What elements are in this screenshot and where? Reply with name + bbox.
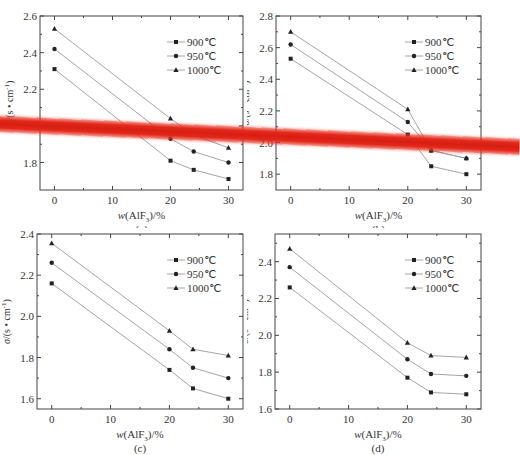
y-tick-label: 1.8: [23, 157, 37, 169]
square-marker-icon: [167, 368, 171, 372]
x-tick-label: 30: [461, 413, 473, 425]
circle-marker-icon: [288, 265, 292, 269]
triangle-marker-icon: [190, 346, 195, 351]
x-tick-label: 30: [461, 194, 473, 206]
x-axis-label: w(AlF3)/%: [354, 428, 402, 443]
circle-marker-icon: [288, 42, 292, 46]
circle-marker-icon: [191, 366, 195, 370]
legend-label: 1000℃: [425, 282, 459, 294]
circle-marker-icon: [167, 347, 171, 351]
chart-a-svg: 01020301.82.02.22.42.6900℃950℃1000℃w(AlF…: [0, 0, 247, 228]
legend-circle-icon: [174, 272, 178, 276]
legend-label: 950℃: [187, 268, 216, 280]
legend-label: 900℃: [187, 254, 216, 266]
chart-panel-b: 01020301.82.02.22.42.62.8900℃950℃1000℃w(…: [247, 0, 494, 228]
triangle-marker-icon: [49, 240, 54, 245]
legend-label: 900℃: [187, 36, 216, 48]
square-marker-icon: [227, 177, 231, 181]
y-tick-label: 2.2: [23, 83, 37, 95]
y-tick-label: 2.6: [259, 42, 273, 54]
circle-marker-icon: [226, 160, 230, 164]
legend-label: 950℃: [425, 268, 454, 280]
x-axis-label: w(AlF3)/%: [118, 209, 166, 224]
square-marker-icon: [464, 392, 468, 396]
circle-marker-icon: [226, 376, 230, 380]
y-tick-label: 2.4: [20, 228, 34, 240]
panel-caption: (d): [372, 442, 385, 455]
circle-marker-icon: [192, 149, 196, 153]
series-line-square: [290, 287, 467, 394]
x-axis-label: w(AlF3)/%: [116, 428, 164, 443]
x-tick-label: 10: [343, 413, 355, 425]
x-tick-label: 20: [164, 413, 176, 425]
x-tick-label: 0: [288, 194, 294, 206]
chart-b-svg: 01020301.82.02.22.42.62.8900℃950℃1000℃w(…: [247, 0, 494, 228]
series-line-square: [52, 283, 229, 398]
legend-square-icon: [174, 40, 178, 44]
x-tick-label: 30: [223, 413, 235, 425]
x-tick-label: 0: [287, 413, 293, 425]
triangle-marker-icon: [428, 353, 433, 358]
circle-marker-icon: [406, 120, 410, 124]
square-marker-icon: [191, 386, 195, 390]
y-tick-label: 2.8: [259, 10, 273, 22]
y-tick-label: 2.4: [23, 47, 37, 59]
x-tick-label: 0: [52, 194, 58, 206]
x-tick-label: 0: [49, 413, 55, 425]
triangle-marker-icon: [168, 116, 173, 121]
legend-label: 900℃: [425, 36, 454, 48]
square-marker-icon: [53, 67, 57, 71]
y-tick-label: 2.0: [258, 329, 272, 341]
triangle-marker-icon: [52, 26, 57, 31]
legend-square-icon: [412, 40, 416, 44]
chart-panel-c: 01020301.61.82.02.22.4900℃950℃1000℃w(AlF…: [0, 228, 247, 455]
panel-caption: (c): [134, 442, 147, 455]
y-axis-label: σ/(s • cm-1): [0, 299, 13, 344]
square-marker-icon: [289, 57, 293, 61]
chart-c-svg: 01020301.61.82.02.22.4900℃950℃1000℃w(AlF…: [0, 228, 247, 455]
square-marker-icon: [192, 168, 196, 172]
y-tick-label: 1.8: [20, 352, 34, 364]
circle-marker-icon: [464, 374, 468, 378]
y-tick-label: 1.8: [258, 366, 272, 378]
y-tick-label: 1.8: [259, 168, 273, 180]
square-marker-icon: [429, 390, 433, 394]
x-tick-label: 30: [223, 194, 235, 206]
square-marker-icon: [429, 164, 433, 168]
square-marker-icon: [50, 281, 54, 285]
y-tick-label: 2.4: [259, 73, 273, 85]
y-tick-label: 1.6: [258, 403, 272, 415]
x-tick-label: 10: [107, 194, 119, 206]
legend-label: 1000℃: [187, 282, 221, 294]
triangle-marker-icon: [288, 29, 293, 34]
square-marker-icon: [405, 376, 409, 380]
series-line-square: [291, 59, 467, 174]
x-axis-label: w(AlF3)/%: [355, 209, 403, 224]
y-tick-label: 1.6: [20, 393, 34, 405]
series-line-circle: [52, 263, 229, 378]
chart-panel-d: 01020301.61.82.02.22.4900℃950℃1000℃w(AlF…: [247, 228, 494, 455]
chart-d-svg: 01020301.61.82.02.22.4900℃950℃1000℃w(AlF…: [247, 228, 494, 455]
y-tick-label: 2.6: [23, 10, 37, 22]
x-tick-label: 10: [344, 194, 356, 206]
legend-square-icon: [412, 258, 416, 262]
chart-panel-a: 01020301.82.02.22.42.6900℃950℃1000℃w(AlF…: [0, 0, 247, 228]
circle-marker-icon: [50, 261, 54, 265]
legend-label: 1000℃: [425, 64, 459, 76]
legend-label: 900℃: [425, 254, 454, 266]
legend-label: 950℃: [187, 50, 216, 62]
y-tick-label: 2.4: [258, 256, 272, 268]
y-tick-label: 2.2: [258, 292, 272, 304]
square-marker-icon: [169, 159, 173, 163]
legend-circle-icon: [174, 54, 178, 58]
triangle-marker-icon: [167, 328, 172, 333]
square-marker-icon: [226, 397, 230, 401]
y-axis-label: σ/(s • cm-1): [247, 81, 252, 126]
square-marker-icon: [288, 285, 292, 289]
y-tick-label: 2.2: [20, 269, 34, 281]
y-tick-label: 2.2: [259, 105, 273, 117]
y-axis-label: σ/(s • cm-1): [247, 299, 251, 344]
x-tick-label: 10: [105, 413, 117, 425]
legend-circle-icon: [412, 54, 416, 58]
circle-marker-icon: [405, 357, 409, 361]
